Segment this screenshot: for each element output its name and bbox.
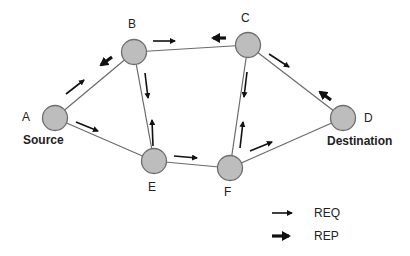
legend-rep-label: REP [314,229,339,243]
node-d[interactable] [331,106,356,131]
req-arrow-e-f [174,156,197,158]
req-arrow-b-e [145,73,148,98]
req-arrow-c-f [244,72,247,97]
edges [55,45,343,168]
node-b[interactable] [122,40,147,65]
edge-b-c [134,45,248,52]
route-discovery-diagram: A B C D E F Source Destination REQ REP [0,0,410,256]
node-e[interactable] [142,149,167,174]
node-label-e: E [148,180,156,194]
legend-req-label: REQ [314,206,340,220]
req-arrows [66,41,289,158]
edge-a-e [55,118,154,161]
rep-arrow-b-a [101,57,112,65]
node-label-b: B [128,17,136,31]
edge-a-b [55,52,134,118]
req-arrow-f-c [240,122,243,148]
destination-label: Destination [327,134,392,148]
node-label-a: A [22,110,30,124]
node-f[interactable] [218,156,243,181]
node-label-c: C [241,11,250,25]
edge-c-d [248,45,343,118]
node-c[interactable] [236,33,261,58]
edge-c-f [230,45,248,168]
legend: REQ REP [272,206,340,243]
nodes [43,33,356,181]
node-label-f: F [224,185,231,199]
node-a[interactable] [43,106,68,131]
source-label: Source [23,133,64,147]
req-arrow-a-e [76,122,98,131]
edge-b-e [134,52,154,161]
req-arrow-f-d [250,142,272,151]
rep-arrow-d-c [320,92,331,100]
req-arrow-a-b [66,80,84,94]
node-label-d: D [364,111,373,125]
req-arrow-e-b [152,120,153,146]
req-arrow-c-d [269,54,289,67]
